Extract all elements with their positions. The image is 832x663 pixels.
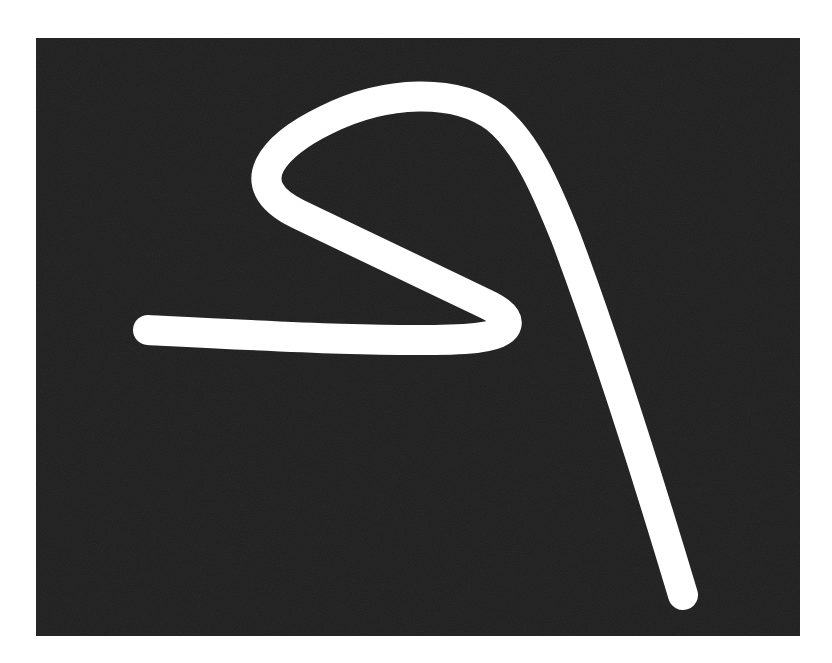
stroke-drawing <box>36 38 800 636</box>
drawing-canvas <box>36 38 800 636</box>
